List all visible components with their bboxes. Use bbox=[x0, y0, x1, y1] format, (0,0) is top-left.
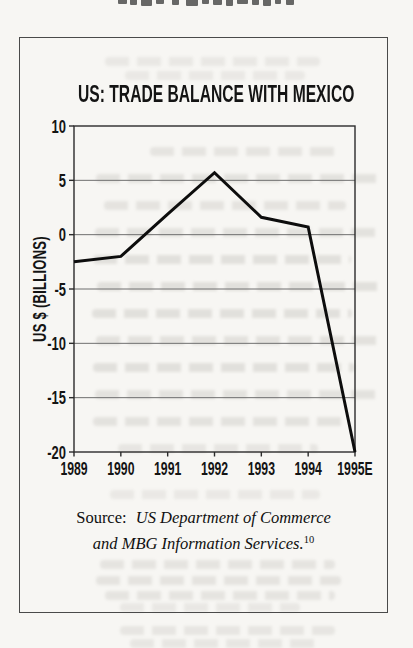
x-tick-label: 1991 bbox=[154, 459, 182, 479]
source-text-line2: and MBG Information Services. bbox=[93, 534, 304, 553]
y-axis-title: US $ (BILLIONS) bbox=[30, 236, 50, 342]
x-tick-label: 1994 bbox=[295, 459, 323, 479]
trade-balance-line bbox=[74, 173, 355, 452]
footnote-marker: 10 bbox=[304, 534, 315, 545]
x-tick-label: 1992 bbox=[201, 459, 228, 479]
source-label: Source: bbox=[76, 508, 126, 527]
source-line-1: Source: US Department of Commerce bbox=[19, 505, 388, 531]
source-line-2: and MBG Information Services.10 bbox=[19, 531, 388, 557]
y-tick-label: 0 bbox=[59, 225, 66, 245]
y-tick-label: 5 bbox=[59, 171, 66, 191]
x-tick-label: 1993 bbox=[248, 459, 275, 479]
x-tick-label: 1990 bbox=[107, 459, 134, 479]
y-tick-label: 10 bbox=[52, 116, 67, 136]
y-tick-label: -5 bbox=[54, 279, 66, 299]
x-tick-label: 1995E bbox=[337, 459, 372, 479]
source-text-line1: US Department of Commerce bbox=[136, 508, 331, 527]
x-tick-label: 1989 bbox=[60, 459, 87, 479]
y-tick-label: -10 bbox=[47, 334, 66, 354]
source-citation: Source: US Department of Commerce and MB… bbox=[19, 505, 388, 557]
y-tick-label: -15 bbox=[47, 388, 66, 408]
